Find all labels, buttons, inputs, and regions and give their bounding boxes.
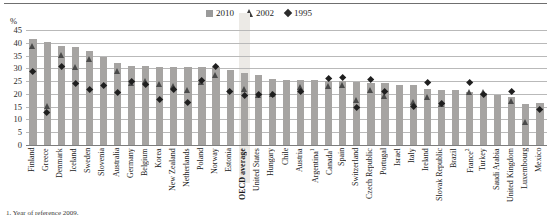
marker-2002 [86,56,92,62]
x-tick-label: Czech Republic [366,148,374,202]
bar-2010 [156,67,163,145]
marker-1995 [466,79,474,87]
bar-2010 [452,90,459,145]
y-tick-label-45: 45 [6,26,22,35]
bar-2010 [72,47,79,145]
x-tick-label: Poland [197,148,205,202]
bar-2010 [325,81,332,145]
chart-container: % 2010 2002 1995 051015202530354045 Finl… [0,0,555,220]
marker-2002 [58,52,64,58]
x-tick-label: Austria [296,148,304,202]
bar-2010 [269,79,276,145]
x-tick-label: Argentina1 [310,148,320,202]
chart-legend: 2010 2002 1995 [206,8,312,18]
bar-2010 [494,95,501,145]
marker-2002 [424,94,430,100]
x-tick-label: Chile [282,148,290,202]
x-tick-label: Finland [28,148,36,202]
marker-2002 [339,82,345,88]
legend-item-2010: 2010 [206,8,234,18]
x-tick-label: United Kingdom [507,148,515,202]
bar-2010 [114,63,121,145]
bar-2010 [255,75,262,145]
x-tick-label: Slovak Republic [436,148,444,202]
x-tick-label: New Zealand [169,148,177,202]
marker-2002 [72,64,78,70]
x-tick-label: Norway [211,148,219,202]
x-axis-labels: FinlandGreeceDenmarkIcelandSwedenSloveni… [26,148,547,204]
x-tick-label: Mexico [535,148,543,202]
y-tick-label-35: 35 [6,51,22,60]
marker-2002 [367,87,373,93]
x-tick-label: Australia [113,148,121,202]
bar-2010 [410,85,417,145]
bar-2010 [227,70,234,145]
y-tick-label-40: 40 [6,39,22,48]
bar-2010 [170,67,177,145]
gridline [26,145,547,146]
x-tick-label: Ireland [422,148,430,202]
x-tick-label: OECD average [239,148,247,202]
marker-2002 [325,83,331,89]
square-marker-icon [206,10,213,17]
y-tick-label-20: 20 [6,90,22,99]
bar-2010 [29,39,36,145]
marker-2002 [353,97,359,103]
x-tick-label: Estonia [225,148,233,202]
marker-2002 [29,43,35,49]
x-tick-label: Sweden [84,148,92,202]
bar-2010 [339,81,346,145]
marker-2002 [241,86,247,92]
marker-2002 [212,72,218,78]
y-axis-ticks: 051015202530354045 [4,30,22,145]
x-tick-label: Luxembourg [521,148,529,202]
x-tick-label: Netherlands [183,148,191,202]
x-tick-label: Portugal [380,148,388,202]
legend-label-2002: 2002 [256,8,274,18]
y-tick-label-0: 0 [6,141,22,150]
bar-2010 [58,46,65,145]
bar-2010 [480,93,487,145]
y-tick-label-25: 25 [6,77,22,86]
marker-2002 [466,89,472,95]
bar-2010 [86,51,93,145]
x-tick-label: Korea [155,148,163,202]
x-tick-label: Hungary [267,148,275,202]
x-tick-label: Italy [408,148,416,202]
x-tick-label: France2 [465,148,475,202]
x-tick-label: Germany [127,148,135,202]
x-tick-label: Greece [42,148,50,202]
bar-2010 [311,80,318,145]
marker-2002 [522,119,528,125]
marker-1995 [423,79,431,87]
bar-2010 [396,85,403,145]
x-tick-label: Spain [338,148,346,202]
bar-2010 [508,97,515,145]
x-tick-label: Switzerland [352,148,360,202]
x-tick-label: Saudi Arabia [493,148,501,202]
plot-area [26,30,547,145]
bar-2010 [100,57,107,145]
bar-2010 [353,82,360,145]
y-tick-label-30: 30 [6,64,22,73]
diamond-marker-icon [284,9,292,17]
gridline [26,43,547,44]
x-tick-label: Canada1 [324,148,334,202]
marker-2002 [156,81,162,87]
x-tick-label: Brazil [450,148,458,202]
top-divider [4,3,547,4]
legend-label-1995: 1995 [294,8,312,18]
y-tick-label-15: 15 [6,102,22,111]
marker-2002 [114,68,120,74]
bar-2010 [241,73,248,145]
legend-item-1995: 1995 [285,8,312,18]
gridline [26,30,547,31]
bar-2010 [44,42,51,146]
x-tick-label: Turkey [479,148,487,202]
x-tick-label: Iceland [70,148,78,202]
legend-label-2010: 2010 [216,8,234,18]
x-tick-label: United States [253,148,261,202]
bar-2010 [212,67,219,145]
bar-2010 [466,92,473,145]
x-tick-label: Israel [394,148,402,202]
